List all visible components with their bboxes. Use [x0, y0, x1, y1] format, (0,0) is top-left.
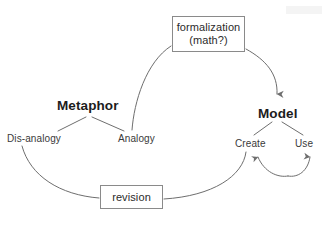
box-revision: revision — [100, 185, 163, 209]
formalization-line-1: formalization — [177, 21, 241, 34]
edge-metaphor-dis-analogy — [58, 117, 86, 131]
node-model: Model — [258, 107, 298, 121]
node-use: Use — [295, 139, 313, 149]
revision-line-1: revision — [112, 191, 151, 204]
node-analogy: Analogy — [118, 134, 155, 144]
formalization-line-2: (math?) — [189, 34, 228, 47]
node-dis-analogy: Dis-analogy — [7, 134, 61, 144]
edge-analogy-formalization — [132, 46, 171, 130]
edge-model-use — [282, 122, 303, 135]
edge-create-use-loop-right — [288, 157, 310, 176]
edge-create-use-loop-left — [258, 157, 288, 176]
edge-revision-dis-analogy — [22, 146, 99, 198]
edge-metaphor-analogy — [92, 117, 124, 131]
node-create: Create — [235, 139, 266, 149]
edge-create-revision — [164, 152, 246, 199]
edge-model-create — [254, 122, 272, 135]
edge-formalization-model — [246, 49, 277, 94]
diagram-canvas: Metaphor Model Dis-analogy Analogy Creat… — [0, 0, 329, 227]
node-metaphor: Metaphor — [57, 99, 119, 113]
box-formalization: formalization (math?) — [172, 16, 245, 52]
